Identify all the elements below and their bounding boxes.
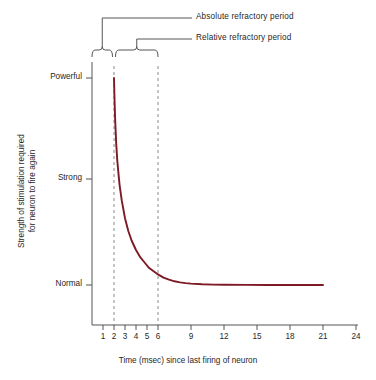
y-tick-label-normal: Normal <box>10 279 82 288</box>
plot-area <box>0 0 376 380</box>
x-tick-label-6: 6 <box>143 332 173 341</box>
x-tick-label-9: 9 <box>176 332 206 341</box>
x-tick-label-18: 18 <box>275 332 305 341</box>
brace-relative-refractory-period <box>116 47 159 57</box>
x-tick-label-21: 21 <box>308 332 338 341</box>
x-tick-label-15: 15 <box>242 332 272 341</box>
data-curve <box>114 78 323 285</box>
y-tick-label-powerful: Powerful <box>10 72 82 81</box>
leader-absolute-refractory-period <box>102 18 192 47</box>
x-tick-label-12: 12 <box>209 332 239 341</box>
y-tick-label-strong: Strong <box>10 173 82 182</box>
leader-relative-refractory-period <box>137 39 192 47</box>
brace-absolute-refractory-period <box>92 47 113 57</box>
refractory-period-chart: Absolute refractory period Relative refr… <box>0 0 376 380</box>
x-tick-label-24: 24 <box>341 332 371 341</box>
